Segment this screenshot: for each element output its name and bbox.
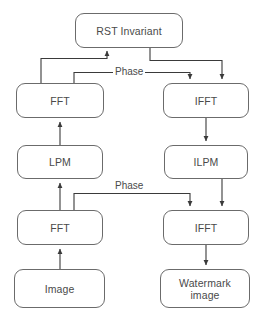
edge-phase-bottom [74, 194, 190, 211]
node-ilpm[interactable]: ILPM [164, 145, 248, 179]
node-label-ifft-top: IFFT [195, 95, 218, 107]
node-fft-bottom[interactable]: FFT [17, 210, 103, 245]
node-watermark-image[interactable]: Watermark image [160, 269, 250, 308]
flow-diagram: RST Invariant FFT IFFT LPM ILPM FFT IFFT… [0, 0, 265, 323]
node-ifft-bottom[interactable]: IFFT [163, 210, 249, 245]
node-label-fft-bottom: FFT [50, 222, 70, 234]
node-label-ilpm: ILPM [194, 156, 219, 168]
edge-label-phase-top: Phase [113, 66, 145, 77]
node-label-lpm: LPM [49, 156, 71, 168]
edge-label-phase-bottom: Phase [113, 180, 145, 191]
node-label-ifft-bottom: IFFT [195, 222, 218, 234]
node-lpm[interactable]: LPM [17, 145, 103, 179]
node-image[interactable]: Image [14, 269, 105, 308]
node-label-fft-top: FFT [50, 95, 70, 107]
node-rst-invariant[interactable]: RST Invariant [75, 13, 183, 48]
node-label-image: Image [45, 283, 75, 295]
node-label-watermark-image: Watermark image [179, 277, 231, 301]
node-ifft-top[interactable]: IFFT [163, 83, 249, 118]
edge-rst-to-ifft-top [150, 48, 222, 79]
node-fft-top[interactable]: FFT [16, 83, 104, 118]
node-label-rst-invariant: RST Invariant [96, 25, 161, 37]
